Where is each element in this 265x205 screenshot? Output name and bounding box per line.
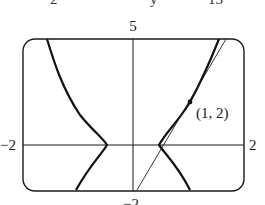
implicit-curve-plot: 2 y 13 (1, 2) 5 −2 2 −2 (0, 0, 265, 205)
point-label: (1, 2) (196, 105, 229, 122)
curve-left-branch (47, 39, 107, 190)
tangency-point-marker (188, 100, 193, 105)
y-max-tick-label: 5 (129, 18, 137, 34)
x-min-tick-label: −2 (0, 137, 16, 153)
y-min-tick-label: −2 (123, 196, 139, 205)
cropped-caption-mid: y (150, 0, 158, 7)
cropped-caption-right: 13 (208, 0, 223, 7)
x-max-tick-label: 2 (249, 137, 257, 153)
cropped-caption-left: 2 (50, 0, 58, 7)
